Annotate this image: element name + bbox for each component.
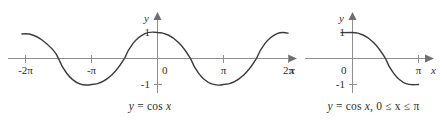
right-ytick-label--1: -1 [336, 78, 345, 90]
right-y-axis-arrowhead [349, 12, 357, 20]
left-panel: -2π -π π 2π 1 -1 0 y x [8, 12, 297, 93]
left-ytick-label--1: -1 [141, 78, 150, 90]
right-caption-eq: = cos [333, 100, 365, 112]
right-caption-domain: , 0 ≤ x ≤ π [370, 100, 419, 112]
left-xtick-label-pi: π [221, 64, 227, 76]
right-panel: π 1 -1 0 y x [305, 12, 436, 93]
left-x-axis-label: x [289, 64, 295, 76]
left-xtick-label--2pi: -2π [18, 64, 33, 76]
right-xtick-label-pi: π [416, 64, 422, 76]
left-origin-label: 0 [162, 64, 168, 76]
left-caption-x: x [166, 100, 171, 112]
right-x-axis-arrowhead [425, 55, 434, 63]
left-ytick-label-1: 1 [145, 26, 151, 38]
right-panel-caption: y = cos x, 0 ≤ x ≤ π [300, 100, 447, 112]
right-ytick-label-1: 1 [340, 26, 346, 38]
left-y-axis-label: y [143, 12, 149, 24]
left-caption-eq: = cos [134, 100, 166, 112]
right-origin-label: 0 [341, 64, 347, 76]
left-xtick-label--pi: -π [87, 64, 97, 76]
right-x-axis-label: x [430, 64, 436, 76]
left-y-axis-arrowhead [154, 12, 162, 20]
left-x-axis-arrowhead [288, 55, 297, 63]
left-panel-caption: y = cos x [0, 100, 300, 112]
right-y-axis-label: y [338, 12, 344, 24]
cosine-figure: -2π -π π 2π 1 -1 0 y x [0, 0, 447, 124]
